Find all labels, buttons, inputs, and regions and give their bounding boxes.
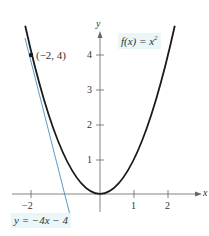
function-label: f(x) = x2 <box>118 33 161 49</box>
y-tick-label: 3 <box>87 85 92 95</box>
tangent-point-marker <box>29 53 33 57</box>
x-axis-label: x <box>203 188 207 198</box>
function-label-main: f(x) = x <box>121 35 154 47</box>
y-axis-label: y <box>96 19 100 29</box>
x-tick-label: 1 <box>131 201 136 211</box>
y-tick-label: 2 <box>87 120 92 130</box>
x-axis-arrow-icon <box>195 192 202 197</box>
y-axis-arrow-icon <box>98 31 103 38</box>
y-tick-label: 1 <box>87 155 92 165</box>
y-tick-label: 4 <box>87 50 92 60</box>
function-label-exponent: 2 <box>154 34 158 42</box>
tangent-label: y = −4x − 4 <box>11 213 71 228</box>
x-tick-label: −2 <box>22 201 33 211</box>
point-label: (−2, 4) <box>36 50 66 61</box>
x-tick-label: 2 <box>165 201 170 211</box>
tangent-line <box>25 38 70 215</box>
